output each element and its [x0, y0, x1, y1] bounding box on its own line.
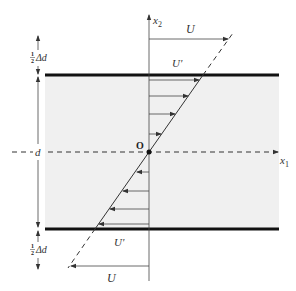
svg-text:Δd: Δd — [35, 52, 48, 63]
svg-text:1: 1 — [31, 243, 34, 249]
origin-label: O — [136, 140, 144, 151]
svg-text:1: 1 — [31, 51, 34, 57]
fluid-layer — [45, 75, 279, 229]
velocity-profile-extension-bottom — [68, 229, 95, 268]
svg-text:2: 2 — [31, 58, 34, 64]
couette-flow-diagram: x2 x1 U U' U' U O 1 2 Δd 1 2 Δd d — [0, 0, 296, 291]
u-prime-top-label: U' — [172, 57, 183, 69]
x1-axis-label: x1 — [279, 154, 289, 169]
gap-top-label: 1 2 Δd — [30, 51, 48, 64]
origin-point — [147, 150, 152, 155]
thickness-label: d — [35, 146, 41, 158]
x2-axis-label: x2 — [152, 14, 162, 29]
u-bottom-label: U — [107, 271, 117, 285]
u-prime-bottom-label: U' — [114, 236, 125, 248]
svg-text:Δd: Δd — [35, 244, 48, 255]
gap-bottom-label: 1 2 Δd — [30, 243, 48, 256]
svg-text:2: 2 — [31, 250, 34, 256]
u-top-label: U — [186, 22, 196, 36]
